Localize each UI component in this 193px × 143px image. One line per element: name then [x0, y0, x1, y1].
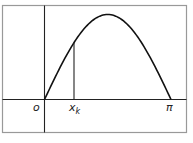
pi-label: π	[166, 101, 173, 114]
origin-label: o	[33, 101, 40, 114]
sine-diagram: o xk π	[0, 0, 193, 143]
frame-border	[3, 6, 187, 133]
